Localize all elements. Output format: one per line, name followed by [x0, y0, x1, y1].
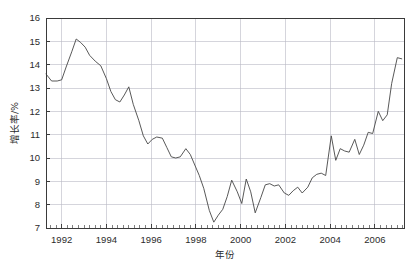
x-tick-label: 1994	[96, 234, 117, 245]
y-tick-label: 9	[35, 176, 40, 187]
x-tick-label: 1992	[51, 234, 72, 245]
y-tick-label: 7	[35, 222, 40, 233]
y-tick-label: 10	[29, 152, 40, 163]
y-tick-label: 13	[29, 82, 40, 93]
x-axis-title: 年份	[215, 249, 235, 260]
x-tick-label: 2002	[275, 234, 296, 245]
chart-background	[0, 0, 420, 270]
y-tick-label: 8	[35, 199, 40, 210]
growth-rate-line-chart: 78910111213141516 1992199419961998200020…	[0, 0, 420, 270]
x-tick-label: 2004	[320, 234, 341, 245]
y-tick-label: 12	[29, 106, 40, 117]
x-tick-label: 2000	[230, 234, 251, 245]
x-tick-label: 1998	[185, 234, 206, 245]
y-tick-label: 11	[30, 129, 40, 140]
y-tick-label: 15	[29, 36, 40, 47]
x-tick-label: 2006	[364, 234, 385, 245]
y-tick-label: 14	[29, 59, 40, 70]
x-tick-label: 1996	[141, 234, 162, 245]
y-axis-title: 增长率/%	[9, 102, 20, 144]
y-tick-label: 16	[29, 12, 40, 23]
